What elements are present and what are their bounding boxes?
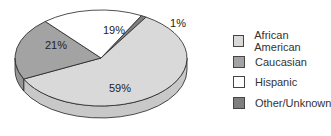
legend-label: Caucasian <box>255 56 307 68</box>
legend-swatch <box>233 35 244 47</box>
pie-chart: 1%59%21%19% <box>0 0 200 136</box>
slice-label: 1% <box>170 17 186 29</box>
legend-item-african-american: African American <box>233 31 331 52</box>
legend-swatch <box>233 56 245 68</box>
legend: African American Caucasian Hispanic Othe… <box>233 31 331 113</box>
legend-item-hispanic: Hispanic <box>233 72 331 93</box>
slice-label: 59% <box>109 82 131 94</box>
legend-label: Hispanic <box>255 76 297 88</box>
legend-label: Other/Unknown <box>255 97 331 109</box>
slice-label: 21% <box>45 39 67 51</box>
legend-swatch <box>233 97 245 109</box>
legend-label: African American <box>254 29 331 53</box>
legend-swatch <box>233 76 245 88</box>
legend-item-other-unknown: Other/Unknown <box>233 93 331 114</box>
slice-label: 19% <box>103 24 125 36</box>
legend-item-caucasian: Caucasian <box>233 52 331 73</box>
